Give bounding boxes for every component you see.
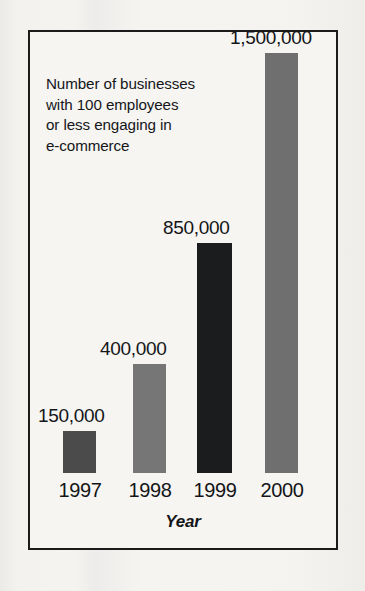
x-axis-title: Year [30,512,336,532]
annotation-line-1: Number of businesses [46,74,251,95]
chart-annotation: Number of businesses with 100 employees … [46,74,251,156]
chart-frame: Number of businesses with 100 employees … [28,30,338,550]
x-tick-1998: 1998 [120,479,180,502]
x-tick-2000: 2000 [252,479,312,502]
bar-2000 [265,53,298,473]
value-label-1997: 150,000 [38,405,105,427]
x-tick-1997: 1997 [50,479,110,502]
bar-1997 [63,431,96,473]
bar-1998 [133,364,166,473]
value-label-2000: 1,500,000 [230,27,312,49]
plot-area: Number of businesses with 100 employees … [30,32,336,548]
annotation-line-3: or less engaging in [46,115,251,136]
x-tick-1999: 1999 [185,479,245,502]
bar-1999 [197,243,232,473]
value-label-1999: 850,000 [163,217,230,239]
x-axis-tick-labels: 1997 1998 1999 2000 [30,479,336,503]
value-label-1998: 400,000 [100,338,167,360]
annotation-line-2: with 100 employees [46,95,251,116]
annotation-line-4: e-commerce [46,136,251,157]
